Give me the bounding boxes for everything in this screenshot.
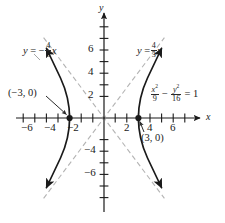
x-tick-label-neg4: −4 [44,122,56,133]
asymptote-right-fraction: 4 3 [151,42,157,60]
equation-x-numerator: x2 [151,84,159,94]
asymptote-right-numerator: 4 [151,42,157,50]
equation-rhs: 1 [193,88,198,99]
vertex-right-point [135,115,141,121]
equation-y-denominator: 16 [171,94,181,103]
x-tick-label-neg2: −2 [67,122,79,133]
y-tick-label-2: 2 [88,89,94,100]
x-tick-label-2: 2 [124,122,130,133]
equation-y-fraction: y2 16 [171,84,181,103]
asymptote-right-label: y = 4 3 x [137,42,162,60]
x-tick-label-6: 6 [170,122,176,133]
asymptote-left-sign: − [39,45,45,56]
vertex-left-leader [46,96,67,115]
y-tick-label-neg4: −4 [84,144,96,155]
asymptote-left-label: y = − 4 3 x [23,42,57,60]
asymptote-right-denominator: 3 [151,50,157,59]
y-tick-label-6: 6 [88,43,94,54]
y-tick-label-4: 4 [88,66,94,77]
vertex-right-leader [140,122,144,133]
equation-x-denominator: 9 [151,94,159,103]
equation-y-numerator: y2 [171,84,181,94]
equation-equals: = [184,88,190,99]
equation-x-fraction: x2 9 [151,84,159,103]
vertex-left-label: (−3, 0) [8,88,37,99]
graph-canvas [0,0,225,223]
asymptote-left-lhs: y [23,45,28,56]
equation-minus: − [162,88,168,99]
y-axis-label: y [99,3,103,13]
asymptote-left-numerator: 4 [45,42,51,50]
asymptote-right-var: x [157,45,162,56]
asymptote-right-equals: = [144,45,150,56]
hyperbola-figure: −6 −4 −2 2 4 6 6 4 2 −4 −6 x y y = − 4 3… [0,0,225,223]
x-axis-label: x [206,112,210,122]
asymptote-left-denominator: 3 [45,50,51,59]
asymptote-left-equals: = [30,45,36,56]
asymptote-left-fraction: 4 3 [45,42,51,60]
asymptote-right-lhs: y [137,45,142,56]
y-tick-label-neg6: −6 [84,167,96,178]
x-tick-label-neg6: −6 [21,122,33,133]
vertex-right-label: (3, 0) [141,133,164,144]
asymptote-left-var: x [52,45,57,56]
hyperbola-equation-label: x2 9 − y2 16 = 1 [150,84,198,103]
